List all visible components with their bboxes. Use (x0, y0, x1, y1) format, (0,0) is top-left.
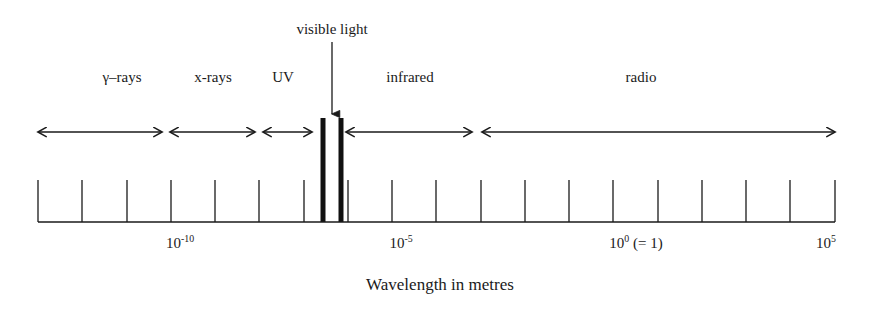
diagram-vector-layer (0, 0, 878, 318)
visible-light-bars (323, 118, 341, 222)
electromagnetic-spectrum-diagram: γ–rays x-rays UV infrared radio visible … (0, 0, 878, 318)
axis-ticks (38, 180, 835, 222)
